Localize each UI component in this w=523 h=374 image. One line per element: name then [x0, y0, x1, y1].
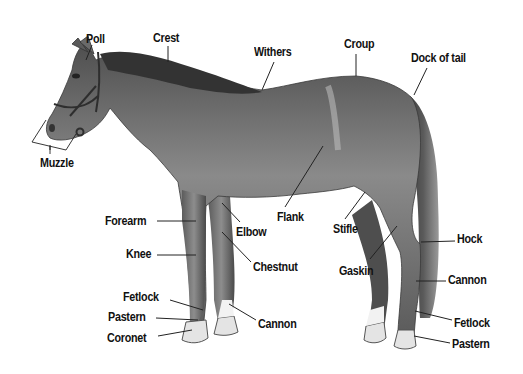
label-knee: Knee — [126, 247, 151, 261]
label-cannon-front: Cannon — [258, 317, 296, 331]
label-hock: Hock — [457, 232, 482, 246]
eye — [72, 74, 80, 79]
label-fetlock-front: Fetlock — [123, 290, 159, 304]
leader-line-dock-of-tail — [414, 68, 427, 95]
label-cannon-hind: Cannon — [448, 273, 486, 287]
label-poll: Poll — [86, 32, 105, 46]
label-chestnut: Chestnut — [253, 260, 298, 274]
leader-line-withers — [262, 62, 274, 90]
near-front-leg — [182, 190, 206, 322]
label-dock-of-tail: Dock of tail — [411, 51, 466, 65]
nostril — [49, 124, 55, 132]
label-elbow: Elbow — [236, 225, 266, 239]
label-flank: Flank — [277, 210, 304, 224]
label-pastern-hind: Pastern — [452, 337, 490, 351]
label-muzzle: Muzzle — [40, 156, 74, 170]
label-gaskin: Gaskin — [339, 264, 373, 278]
leader-line-pastern-hind — [414, 336, 450, 343]
label-stifle: Stifle — [333, 222, 358, 236]
label-forearm: Forearm — [105, 214, 146, 228]
label-pastern-front: Pastern — [108, 310, 146, 324]
label-croup: Croup — [344, 37, 374, 51]
horse-anatomy-diagram: Poll Crest Withers Croup Dock of tail Mu… — [0, 0, 523, 374]
white-socks — [218, 300, 384, 326]
label-withers: Withers — [254, 45, 292, 59]
label-coronet: Coronet — [107, 331, 146, 345]
label-fetlock-hind: Fetlock — [454, 316, 490, 330]
label-crest: Crest — [153, 31, 179, 45]
